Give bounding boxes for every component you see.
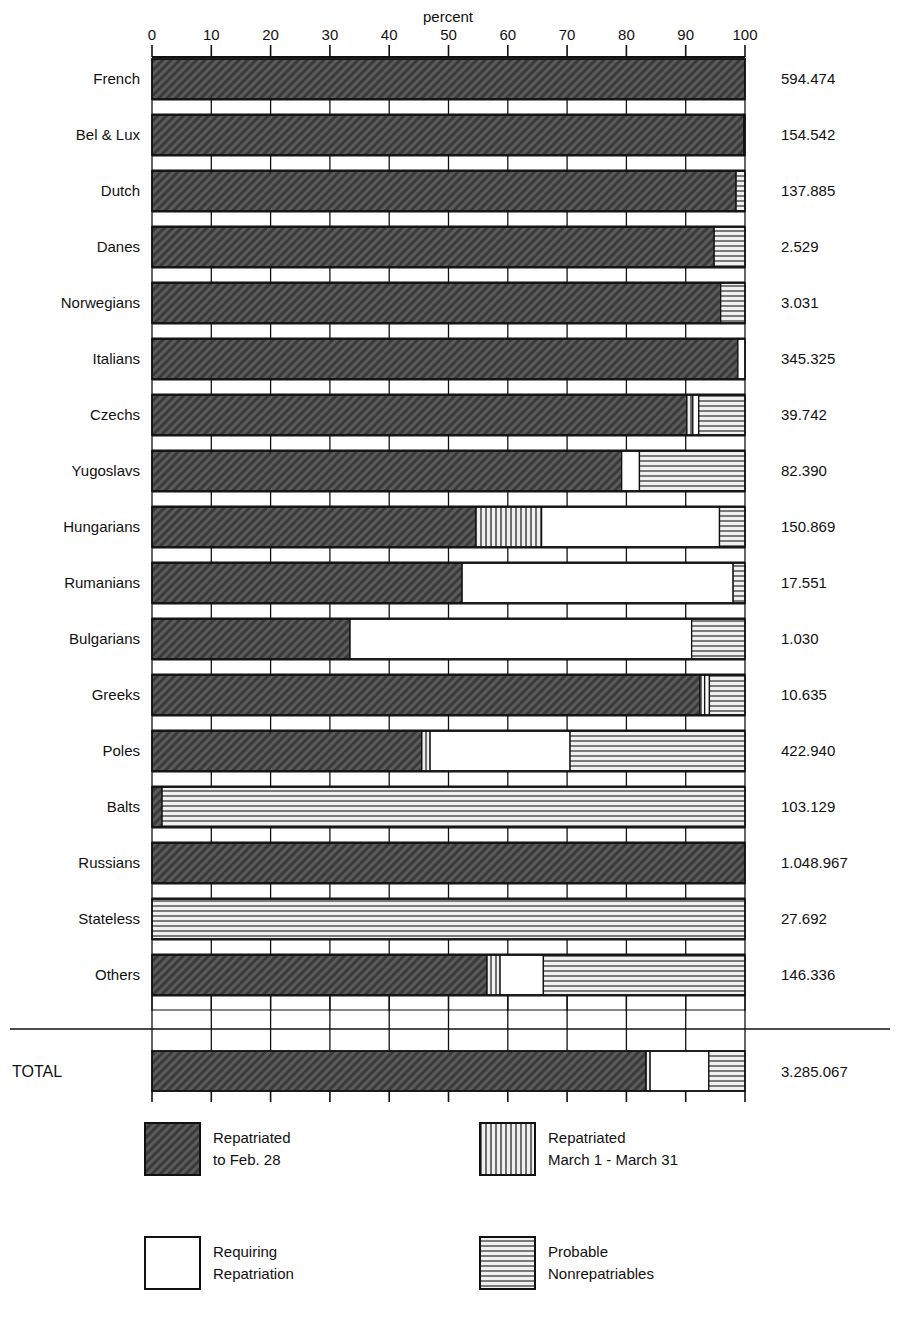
legend-swatch (480, 1237, 535, 1289)
category-label: Others (95, 966, 140, 983)
bar-segment (162, 787, 745, 827)
bar-segment (152, 899, 745, 939)
bar-segment (700, 675, 705, 715)
bar-segment (487, 955, 500, 995)
bar-segment (152, 619, 350, 659)
bar-dutch (152, 171, 745, 211)
bar-segment (542, 507, 720, 547)
bar-segment (152, 1051, 646, 1091)
bar-hungarians (152, 507, 745, 547)
bar-segment (422, 731, 430, 771)
bar-segment (152, 227, 714, 267)
legend-swatch (145, 1237, 200, 1289)
bar-segment (152, 59, 745, 99)
bar-greeks (152, 675, 745, 715)
category-label: French (93, 70, 140, 87)
row-value-label: 82.390 (781, 462, 827, 479)
legend-label-line1: Repatriated (548, 1129, 626, 1146)
stacked-bar-chart: 0102030405060708090100 FrenchBel & LuxDu… (0, 0, 900, 1323)
bar-segment (152, 675, 700, 715)
bar-segment (476, 507, 542, 547)
bar-segment (714, 227, 745, 267)
category-label: Stateless (78, 910, 140, 927)
bar-segment (152, 787, 162, 827)
category-label: Danes (97, 238, 140, 255)
legend-item: RequiringRepatriation (145, 1237, 294, 1289)
category-labels: FrenchBel & LuxDutchDanesNorwegiansItali… (61, 70, 141, 983)
x-tick-label: 20 (262, 26, 279, 43)
x-tick-label: 0 (148, 26, 156, 43)
category-label: Bulgarians (69, 630, 140, 647)
bar-segment (699, 395, 745, 435)
row-value-label: 345.325 (781, 350, 835, 367)
bar-segment (152, 507, 476, 547)
bar-segment (639, 451, 745, 491)
bar-segment (152, 563, 462, 603)
category-label: Greeks (92, 686, 140, 703)
bar-segment (650, 1051, 709, 1091)
row-value-label: 17.551 (781, 574, 827, 591)
bar-segment (350, 619, 692, 659)
row-value-label: 2.529 (781, 238, 819, 255)
bar-segment (736, 171, 745, 211)
legend-label-line1: Probable (548, 1243, 608, 1260)
row-value-label: 1.048.967 (781, 854, 848, 871)
legend-swatch (480, 1123, 535, 1175)
bar-segment (721, 283, 745, 323)
bar-segment (152, 171, 736, 211)
row-value-label: 3.031 (781, 294, 819, 311)
value-labels: 594.474154.542137.8852.5293.031345.32539… (781, 70, 848, 983)
bar-russians (152, 843, 745, 883)
category-label: Yugoslavs (72, 462, 140, 479)
row-value-label: 154.542 (781, 126, 835, 143)
bar-segment (720, 507, 745, 547)
bar-segment (152, 339, 738, 379)
bar-segment (152, 115, 744, 155)
legend-label-line2: to Feb. 28 (213, 1151, 281, 1168)
bar-poles (152, 731, 745, 771)
bar-segment (152, 395, 687, 435)
category-label: Bel & Lux (76, 126, 141, 143)
row-value-label: 146.336 (781, 966, 835, 983)
legend: Repatriatedto Feb. 28RepatriatedMarch 1 … (145, 1123, 678, 1289)
row-value-label: 1.030 (781, 630, 819, 647)
category-label: Dutch (101, 182, 140, 199)
bar-segment (692, 619, 745, 659)
category-label: Russians (78, 854, 140, 871)
x-tick-label: 100 (732, 26, 757, 43)
row-value-label: 594.474 (781, 70, 835, 87)
x-axis: 0102030405060708090100 (148, 26, 758, 57)
bar-french (152, 59, 745, 99)
category-label: Balts (107, 798, 140, 815)
x-tick-label: 40 (381, 26, 398, 43)
category-label: Italians (92, 350, 140, 367)
bar-segment (152, 843, 745, 883)
legend-label-line1: Repatriated (213, 1129, 291, 1146)
bar-segment (709, 675, 745, 715)
total-value-label: 3.285.067 (781, 1063, 848, 1080)
bar-segment (500, 955, 543, 995)
legend-item: Repatriatedto Feb. 28 (145, 1123, 291, 1175)
bar-norwegians (152, 283, 745, 323)
bar-total (152, 1051, 745, 1091)
bar-segment (693, 395, 699, 435)
bar-segment (705, 675, 710, 715)
x-tick-label: 30 (322, 26, 339, 43)
bar-segment (462, 563, 733, 603)
bar-czechs (152, 395, 745, 435)
category-label: Norwegians (61, 294, 140, 311)
x-tick-label: 10 (203, 26, 220, 43)
bar-others (152, 955, 745, 995)
legend-label-line2: March 1 - March 31 (548, 1151, 678, 1168)
row-value-label: 150.869 (781, 518, 835, 535)
bar-yugoslavs (152, 451, 745, 491)
axis-title: percent (423, 8, 474, 25)
bar-bulgarians (152, 619, 745, 659)
bar-segment (709, 1051, 745, 1091)
row-value-label: 10.635 (781, 686, 827, 703)
bar-segment (738, 339, 745, 379)
bar-segment (152, 451, 622, 491)
row-value-label: 422.940 (781, 742, 835, 759)
row-value-label: 137.885 (781, 182, 835, 199)
row-value-label: 103.129 (781, 798, 835, 815)
